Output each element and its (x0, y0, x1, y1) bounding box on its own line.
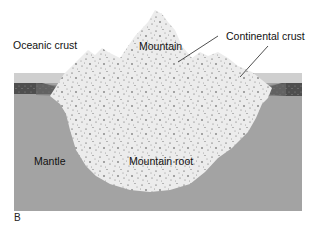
panel-letter: B (14, 212, 21, 223)
label-oceanic-crust: Oceanic crust (13, 39, 77, 51)
mountain-cross-section-diagram: Oceanic crust Mountain Continental crust… (0, 0, 315, 226)
label-continental-crust: Continental crust (226, 30, 305, 42)
label-mantle: Mantle (34, 155, 66, 167)
label-mountain-root: Mountain root (129, 155, 193, 167)
continental-crust-leader-2 (240, 46, 268, 77)
label-mountain: Mountain (139, 40, 182, 52)
